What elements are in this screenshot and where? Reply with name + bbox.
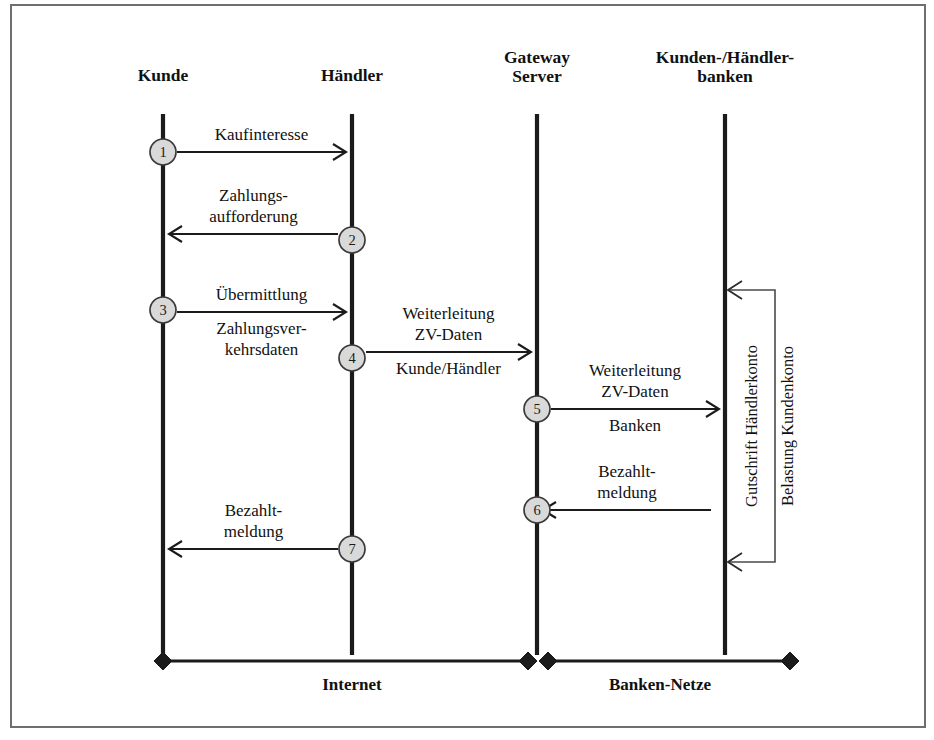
message-label-4: Weiterleitung bbox=[402, 304, 495, 323]
message-4: ZV-DatenWeiterleitungKunde/Händler bbox=[366, 304, 531, 378]
step-marker-4: 4 bbox=[339, 345, 365, 371]
message-label-3: Zahlungsver- bbox=[216, 319, 307, 338]
network-label-internet: Internet bbox=[322, 675, 382, 694]
sequence-diagram: InternetBanken-Netze Belastung Kundenkon… bbox=[0, 0, 934, 740]
network-endpoint-banken-netze-1 bbox=[781, 652, 799, 670]
network-endpoint-internet-1 bbox=[519, 652, 537, 670]
step-marker-5: 5 bbox=[524, 396, 550, 422]
diagram-container: InternetBanken-Netze Belastung Kundenkon… bbox=[0, 0, 934, 740]
message-6: meldungBezahlt- bbox=[543, 462, 711, 518]
message-label-4: Kunde/Händler bbox=[396, 359, 501, 378]
step-number-2: 2 bbox=[348, 232, 355, 248]
message-label-3: Übermittlung bbox=[216, 285, 308, 304]
actor-label-banken: Kunden-/Händler- bbox=[656, 47, 795, 67]
step-number-6: 6 bbox=[533, 502, 540, 518]
network-banken-netze: Banken-Netze bbox=[539, 652, 799, 694]
actor-label-banken-line2: banken bbox=[697, 66, 753, 86]
network-label-banken-netze: Banken-Netze bbox=[609, 675, 711, 694]
step-number-1: 1 bbox=[159, 144, 166, 160]
message-label-5: ZV-Daten bbox=[601, 382, 669, 401]
message-3: ÜbermittlungZahlungsver-kehrsdaten bbox=[177, 285, 346, 359]
bank-bracket-layer: Belastung KundenkontoGutschrift Händlerk… bbox=[728, 281, 797, 571]
message-7: meldungBezahlt- bbox=[169, 501, 338, 557]
step-number-7: 7 bbox=[348, 541, 355, 557]
step-marker-7: 7 bbox=[339, 536, 365, 562]
message-label-5: Banken bbox=[609, 416, 661, 435]
message-5: ZV-DatenWeiterleitungBanken bbox=[551, 361, 719, 435]
network-internet: Internet bbox=[154, 652, 537, 694]
network-endpoint-banken-netze-0 bbox=[539, 652, 557, 670]
message-label-1: Kaufinteresse bbox=[215, 125, 308, 144]
step-marker-6: 6 bbox=[524, 497, 550, 523]
step-marker-1: 1 bbox=[150, 139, 176, 165]
step-marker-2: 2 bbox=[339, 227, 365, 253]
actor-labels-layer: KundeHändlerGatewayServerKunden-/Händler… bbox=[138, 47, 795, 86]
messages-layer: KaufinteresseaufforderungZahlungs-Übermi… bbox=[169, 125, 719, 557]
message-label-2: aufforderung bbox=[209, 207, 298, 226]
actor-label-gateway: Gateway bbox=[504, 47, 570, 67]
message-label-4: ZV-Daten bbox=[415, 325, 483, 344]
message-label-5: Weiterleitung bbox=[589, 361, 682, 380]
message-label-6: Bezahlt- bbox=[598, 462, 656, 481]
message-1: Kaufinteresse bbox=[177, 125, 346, 160]
message-label-3: kehrsdaten bbox=[225, 340, 299, 359]
actor-label-gateway-line2: Server bbox=[512, 66, 562, 86]
step-number-3: 3 bbox=[159, 302, 166, 318]
bank-bracket-label-1: Gutschrift Händlerkonto bbox=[742, 345, 761, 507]
actor-label-haendler: Händler bbox=[321, 65, 383, 85]
message-2: aufforderungZahlungs- bbox=[169, 186, 338, 242]
message-label-6: meldung bbox=[597, 483, 657, 502]
network-endpoint-internet-0 bbox=[154, 652, 172, 670]
step-marker-3: 3 bbox=[150, 297, 176, 323]
message-label-2: Zahlungs- bbox=[219, 186, 288, 205]
message-label-7: meldung bbox=[224, 522, 284, 541]
message-label-7: Bezahlt- bbox=[225, 501, 283, 520]
networks-layer: InternetBanken-Netze bbox=[154, 652, 799, 694]
actor-label-kunde: Kunde bbox=[138, 65, 189, 85]
step-number-5: 5 bbox=[533, 401, 540, 417]
bank-bracket-label-0: Belastung Kundenkonto bbox=[778, 346, 797, 506]
step-number-4: 4 bbox=[348, 350, 356, 366]
